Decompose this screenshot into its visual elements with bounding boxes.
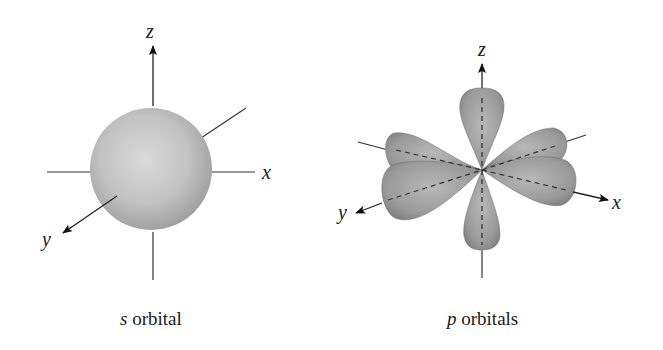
s-orbital-sphere bbox=[90, 108, 212, 230]
p-y-label: y bbox=[336, 201, 347, 224]
p-x-label: x bbox=[611, 191, 621, 213]
s-x-label: x bbox=[261, 161, 271, 183]
p-caption-rest: orbitals bbox=[457, 308, 519, 329]
s-diagonal-axis bbox=[201, 108, 246, 138]
s-caption: s orbital bbox=[120, 308, 182, 329]
s-caption-italic: s bbox=[120, 308, 127, 329]
p-caption-italic: p bbox=[445, 308, 457, 329]
p-z-label: z bbox=[477, 38, 486, 60]
p-orbitals-panel: z x y p orbitals bbox=[336, 38, 621, 329]
p-caption: p orbitals bbox=[445, 308, 518, 329]
s-y-label: y bbox=[40, 228, 51, 251]
s-caption-rest: orbital bbox=[127, 308, 181, 329]
p-x-axis-arrow bbox=[573, 192, 608, 200]
s-orbital-panel: z x y s orbital bbox=[40, 20, 271, 329]
s-y-axis-arrow bbox=[63, 196, 117, 233]
orbital-diagram: z x y s orbital z x y bbox=[0, 0, 663, 350]
p-y-axis-arrow bbox=[356, 203, 382, 213]
s-z-label: z bbox=[145, 20, 154, 42]
